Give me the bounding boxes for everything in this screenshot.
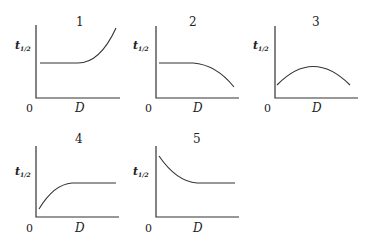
panel-label: 3 [312,15,320,29]
origin-label: 0 [145,102,152,115]
origin-label: 0 [26,222,33,235]
axes [36,25,120,98]
axes [36,146,119,217]
panel-5: 5 t1/2 0 D [133,132,239,235]
x-axis-label: D [311,101,322,115]
x-axis-label: D [192,101,203,115]
x-axis-label: D [74,101,85,115]
axes [156,146,239,217]
y-axis-label: t1/2 [15,39,31,52]
x-axis-label: D [192,221,203,235]
y-axis-label: t1/2 [15,165,31,178]
x-axis-label: D [74,221,85,235]
curve [159,63,234,87]
origin-label: 0 [26,102,33,115]
panel-4: 4 t1/2 0 D [15,132,119,235]
panel-2: 2 t1/2 0 D [133,15,239,115]
panel-label: 1 [76,15,84,29]
panel-3: 3 t1/2 0 D [253,15,358,115]
curve [159,156,235,183]
axes [275,26,358,98]
figure-canvas: 1 t1/2 0 D 2 t1/2 0 D 3 t1/2 0 D 4 t1/2 … [0,0,375,247]
axes [156,26,239,98]
panel-label: 4 [75,132,83,146]
panel-1: 1 t1/2 0 D [15,15,120,115]
origin-label: 0 [145,222,152,235]
origin-label: 0 [264,102,271,115]
curve [277,67,350,86]
curve [39,183,116,209]
panel-label: 2 [189,15,197,29]
panel-label: 5 [193,132,201,146]
y-axis-label: t1/2 [133,39,149,52]
y-axis-label: t1/2 [253,39,269,52]
curve [40,28,116,63]
y-axis-label: t1/2 [133,165,149,178]
